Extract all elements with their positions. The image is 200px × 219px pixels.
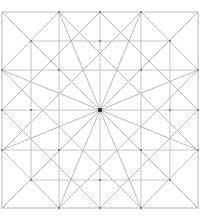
vertex-dot [197, 149, 199, 151]
vertex-dot [140, 207, 142, 209]
vertex-dot [30, 109, 32, 111]
vertex-dot [1, 149, 3, 151]
center-dot [98, 108, 102, 112]
vertex-dot [140, 149, 142, 151]
vertex-dot [169, 179, 171, 181]
vertex-dot [30, 40, 32, 42]
vertex-dot [58, 207, 60, 209]
vertex-dot [169, 109, 171, 111]
vertex-dot [58, 69, 60, 71]
vertex-dot [58, 11, 60, 13]
vertex-dot [1, 109, 3, 111]
geometric-star-diagram [0, 0, 200, 219]
vertex-dot [197, 109, 199, 111]
vertex-dot [99, 179, 101, 181]
vertex-dot [197, 69, 199, 71]
vertex-dot [140, 69, 142, 71]
vertex-dot [99, 207, 101, 209]
center-point [98, 108, 102, 112]
vertex-dot [58, 149, 60, 151]
vertex-dot [30, 179, 32, 181]
vertex-dot [99, 11, 101, 13]
vertex-dot [99, 40, 101, 42]
vertex-dot [169, 40, 171, 42]
vertex-dot [140, 11, 142, 13]
vertex-dot [1, 69, 3, 71]
